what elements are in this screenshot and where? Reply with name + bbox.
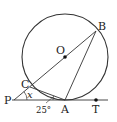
angle-arc-25 — [53, 96, 54, 100]
chord-ab — [65, 31, 96, 100]
chord-ca — [30, 87, 65, 100]
label-angle-x: x — [27, 89, 33, 100]
geometry-diagram: O B C P A T x 25° — [0, 0, 117, 122]
label-t: T — [92, 103, 100, 116]
label-o: O — [56, 44, 65, 57]
point-t — [94, 98, 98, 102]
label-a: A — [60, 103, 70, 116]
label-p: P — [4, 94, 12, 107]
label-b: B — [98, 20, 106, 33]
label-angle-25: 25° — [36, 105, 51, 115]
